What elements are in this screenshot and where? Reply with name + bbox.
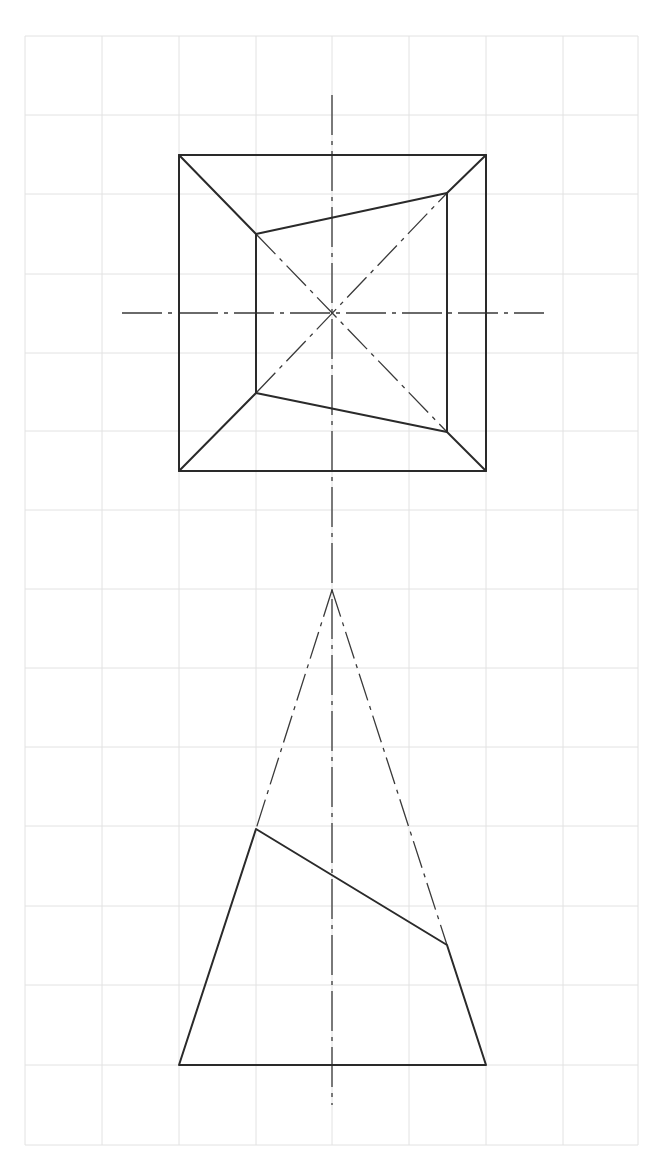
technical-drawing (0, 0, 660, 1167)
edge-top-right (447, 155, 486, 193)
edge-bottom-left (179, 393, 256, 471)
diagonal-hidden-2 (256, 193, 447, 393)
phantom-edge-right (332, 590, 447, 945)
edge-bottom-right (447, 432, 486, 471)
top-view (122, 155, 544, 471)
phantom-edge-left (256, 590, 332, 829)
diagonal-hidden-1 (256, 234, 447, 432)
